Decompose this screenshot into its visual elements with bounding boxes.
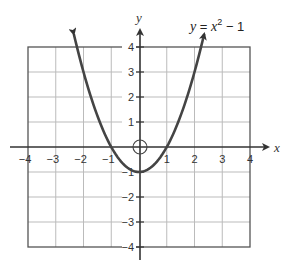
x-tick-label: −4 [19, 153, 32, 165]
x-tick-label: −2 [74, 153, 87, 165]
y-tick-label: −3 [121, 216, 134, 228]
x-tick-label: 1 [164, 153, 170, 165]
y-tick-label: 4 [128, 41, 134, 53]
equation-label: y = x2 − 1 [188, 17, 244, 34]
x-axis-label: x [273, 140, 280, 155]
x-tick-label: 2 [191, 153, 197, 165]
x-tick-label: −1 [102, 153, 115, 165]
y-tick-label: −2 [121, 191, 134, 203]
y-tick-label: 2 [128, 91, 134, 103]
x-tick-label: −3 [46, 153, 59, 165]
y-tick-label: −4 [121, 241, 134, 253]
parabola-curve [74, 34, 204, 172]
x-tick-label: 3 [219, 153, 225, 165]
y-tick-label: 3 [128, 66, 134, 78]
y-tick-label: 1 [128, 116, 134, 128]
y-axis-label: y [134, 10, 142, 25]
parabola-chart: x y −4−3−2−112344321−1−2−3−4 y = x2 − 1 [0, 0, 298, 271]
x-tick-label: 4 [247, 153, 253, 165]
